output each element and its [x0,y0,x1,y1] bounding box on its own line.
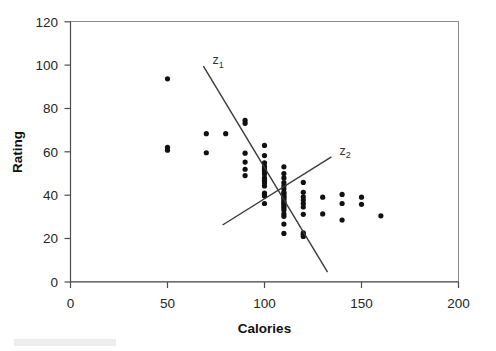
y-tick-label: 60 [43,145,58,160]
data-point [281,222,286,227]
data-point [281,231,286,236]
data-point [378,213,383,218]
data-point [281,214,286,219]
data-point [301,204,306,209]
x-tick-label: 50 [160,296,175,311]
plot-frame [71,22,459,282]
data-point [204,150,209,155]
data-point [359,195,364,200]
data-point [301,180,306,185]
data-point [165,76,170,81]
fit-lines-layer [203,66,331,272]
data-point [301,212,306,217]
data-point [301,190,306,195]
data-point [243,159,248,164]
data-point [320,195,325,200]
y-axis-title: Rating [10,131,25,173]
scatter-plot-svg: 120 100 80 60 40 20 0 0 50 100 150 200 C… [0,0,496,351]
data-point [262,201,267,206]
fit-line-z1 [203,66,327,272]
data-point [340,217,345,222]
data-point [204,131,209,136]
x-tick-label: 100 [253,296,276,311]
data-point [223,131,228,136]
data-point [281,164,286,169]
x-axis-ticks [71,282,459,288]
fit-line-labels-layer: z1z2 [212,53,350,160]
y-tick-label: 120 [35,15,58,30]
data-point [165,148,170,153]
data-points-layer [165,76,384,239]
data-point [243,121,248,126]
y-tick-label: 40 [43,188,58,203]
x-tick-label: 200 [447,296,470,311]
data-point [340,201,345,206]
data-point [262,153,267,158]
fit-line-z2 [223,157,332,225]
y-tick-label: 100 [35,58,58,73]
data-point [320,211,325,216]
data-point [243,167,248,172]
y-tick-labels: 120 100 80 60 40 20 0 [35,15,58,290]
y-tick-label: 20 [43,231,58,246]
fit-line-label-z2: z2 [339,144,350,161]
data-point [359,202,364,207]
x-axis-title: Calories [238,321,291,336]
chart-figure: 120 100 80 60 40 20 0 0 50 100 150 200 C… [0,0,496,351]
data-point [262,183,267,188]
data-point [262,143,267,148]
data-point [243,173,248,178]
data-point [340,192,345,197]
data-point [243,151,248,156]
data-point [281,175,286,180]
y-tick-label: 0 [50,275,58,290]
x-tick-label: 150 [350,296,373,311]
y-tick-label: 80 [43,101,58,116]
x-tick-label: 0 [67,296,75,311]
fit-line-label-z1: z1 [212,53,223,70]
scan-edge-artifact [14,339,116,346]
y-axis-ticks [65,22,71,282]
x-tick-labels: 0 50 100 150 200 [67,296,470,311]
